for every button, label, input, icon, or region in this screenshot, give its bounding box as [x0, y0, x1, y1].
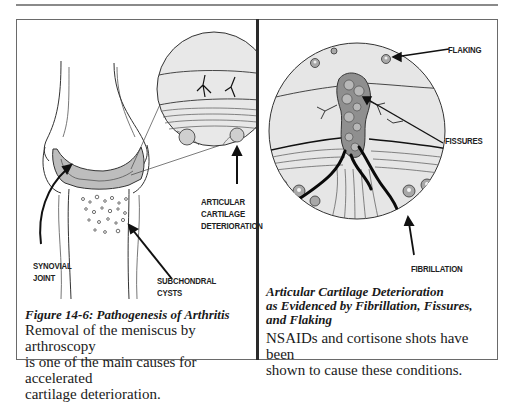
- flaking-arrow: [393, 49, 449, 61]
- caption-line: cartilage deterioration.: [25, 386, 257, 402]
- label-fissures: Fissures: [445, 135, 483, 147]
- label-fibrillation: Fibrillation: [411, 263, 463, 275]
- caption-line: shown to cause these conditions.: [266, 362, 494, 378]
- articular-arrow: [233, 147, 241, 184]
- fibrillation-arrow: [405, 217, 414, 255]
- caption-line: Removal of the meniscus by arthroscopy: [25, 322, 257, 354]
- right-figure-panel: Flaking Fissures Fibrillation Articular …: [259, 19, 497, 360]
- label-subchondral-cysts: Subchondral Cysts: [157, 275, 216, 299]
- label-flaking: Flaking: [448, 44, 481, 56]
- figure-caption-body: NSAIDs and cortisone shots have been sho…: [266, 330, 494, 378]
- caption-title-line: and Flaking: [266, 313, 473, 327]
- top-rule: [16, 4, 498, 6]
- label-line-deterioration: Deterioration: [201, 220, 263, 232]
- cartilage-deterioration-illustration: [259, 19, 497, 279]
- caption-line: NSAIDs and cortisone shots have been: [266, 330, 494, 362]
- left-figure-panel: Articular Cartilage Deterioration Synovi…: [17, 19, 256, 360]
- caption-line: is one of the main causes for accelerate…: [25, 354, 257, 386]
- caption-title-line: Articular Cartilage Deterioration: [266, 285, 473, 299]
- subchondral-arrow: [129, 225, 172, 279]
- figure-caption-body: Removal of the meniscus by arthroscopy i…: [25, 322, 257, 402]
- label-articular-cartilage-deterioration: Articular Cartilage Deterioration: [201, 196, 263, 232]
- label-line-cysts: Cysts: [157, 287, 216, 299]
- figure-caption-title: Figure 14-6: Pathogenesis of Arthritis: [25, 308, 230, 322]
- caption-title-line: as Evidenced by Fibrillation, Fissures,: [266, 299, 473, 313]
- label-line-joint: Joint: [33, 272, 72, 284]
- label-line-cartilage: Cartilage: [201, 208, 263, 220]
- magnified-cartilage-circle: [157, 32, 256, 146]
- label-line-subchondral: Subchondral: [157, 275, 216, 287]
- label-line-synovial: Synovial: [33, 260, 72, 272]
- label-line-articular: Articular: [201, 196, 263, 208]
- knee-joint-illustration: [17, 19, 256, 299]
- subchondral-cysts-dots: [82, 195, 128, 233]
- label-synovial-joint: Synovial Joint: [33, 260, 72, 284]
- figure-caption-title: Articular Cartilage Deterioration as Evi…: [266, 285, 473, 327]
